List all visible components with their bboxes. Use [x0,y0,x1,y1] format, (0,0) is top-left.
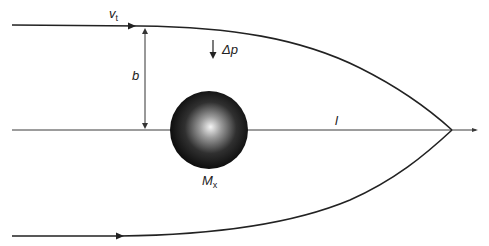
lensing-diagram [0,0,489,246]
mass-subscript: x [213,180,218,190]
momentum-label: Δp [222,43,238,56]
lower-ray-arrowhead-icon [116,233,124,240]
axis-arrowhead-icon [472,128,478,132]
impact-parameter-label: b [132,69,139,82]
mass-label: Mx [202,174,217,190]
distance-symbol: l [335,113,338,128]
impact-parameter-symbol: b [132,68,139,83]
velocity-subscript: t [116,13,119,23]
momentum-symbol: Δp [222,42,238,57]
dimension-arrow-up-icon [142,28,148,34]
mass-symbol: M [202,173,213,188]
upper-ray-arrowhead-icon [128,23,136,30]
momentum-arrow-down-icon [210,52,217,59]
velocity-label: vt [109,7,118,23]
dimension-arrow-down-icon [142,123,148,129]
mass-sphere [170,91,248,169]
distance-label: l [335,114,338,127]
